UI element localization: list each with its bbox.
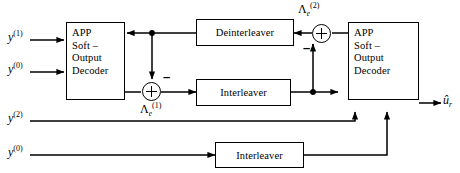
block-decoder2[interactable]: APP Soft – Output Decoder — [348, 22, 419, 100]
diagram-canvas: APP Soft – Output Decoder APP Soft – Out… — [0, 0, 460, 173]
decoder2-line-4: Decoder — [354, 65, 418, 78]
decoder1-line-3: Output — [72, 52, 124, 65]
lambda-e-1-sub: e — [149, 109, 152, 118]
decoder1-line-4: Decoder — [72, 65, 124, 78]
label-input-y2: y(2) — [8, 110, 23, 126]
wire-interleaver-bottom-to-decoder2 — [304, 112, 387, 155]
lambda-e-2-sub: e — [307, 9, 310, 18]
junction-dot-interleaver-mid — [310, 89, 316, 95]
input-y2-sup: (2) — [13, 110, 22, 119]
decoder1-line-2: Soft – — [72, 40, 124, 53]
block-interleaver-mid[interactable]: Interleaver — [196, 79, 291, 106]
label-lambda-e-2: Λe(2) — [298, 1, 319, 18]
block-deinterleaver[interactable]: Deinterleaver — [196, 19, 294, 46]
lambda-e-1-base: Λ — [140, 102, 149, 116]
adder1-minus-sign: – — [163, 74, 170, 80]
label-input-y1: y(1) — [8, 29, 23, 45]
decoder2-line-3: Output — [354, 52, 418, 65]
block-decoder1[interactable]: APP Soft – Output Decoder — [66, 22, 125, 100]
lambda-e-2-sup: (2) — [310, 1, 319, 10]
decoder1-line-1: APP — [72, 27, 124, 40]
input-y0-bottom-sup: (0) — [13, 144, 22, 153]
lambda-e-2-base: Λ — [298, 2, 307, 16]
label-input-y0-top: y(0) — [8, 61, 23, 77]
adder1 — [142, 82, 161, 101]
adder2-minus-sign: – — [303, 45, 310, 51]
adder2 — [312, 24, 331, 43]
label-output-u-hat: ûr — [443, 93, 452, 109]
decoder2-line-1: APP — [354, 27, 418, 40]
lambda-e-1-sup: (1) — [152, 101, 161, 110]
wire-y2-to-decoder2 — [30, 112, 355, 121]
block-interleaver-bottom[interactable]: Interleaver — [215, 142, 304, 168]
label-input-y0-bottom: y(0) — [8, 144, 23, 160]
input-y0-top-sup: (0) — [13, 61, 22, 70]
input-y1-sup: (1) — [13, 29, 22, 38]
decoder2-line-2: Soft – — [354, 40, 418, 53]
output-sub: r — [449, 100, 452, 109]
label-lambda-e-1: Λe(1) — [140, 101, 161, 118]
junction-dot-feedback — [149, 30, 155, 36]
